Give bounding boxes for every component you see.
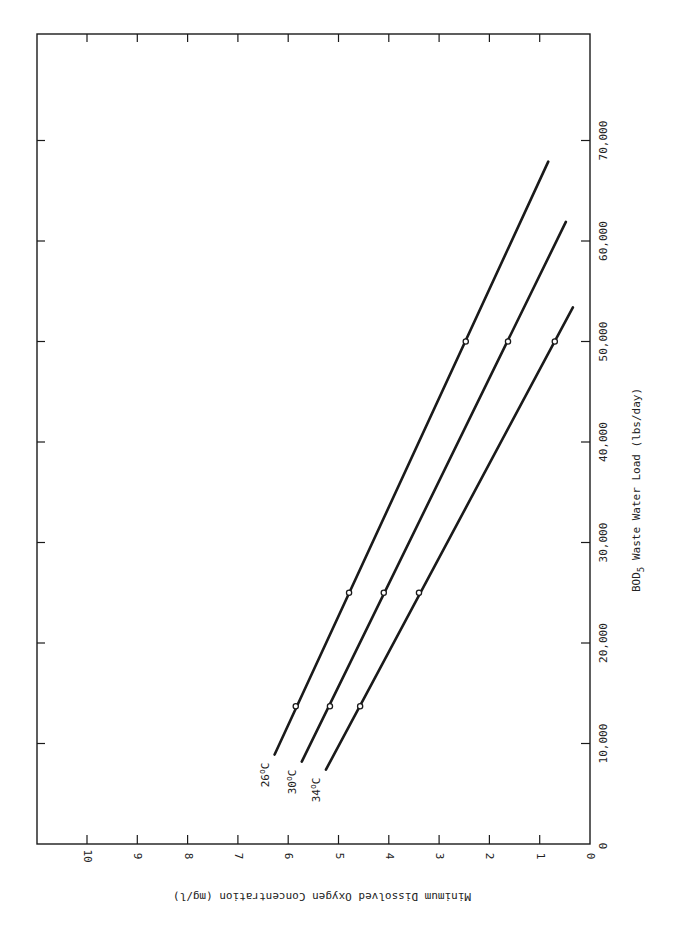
data-point-marker xyxy=(358,704,363,709)
data-point-marker xyxy=(327,704,332,709)
do-tick-label: 10 xyxy=(81,849,94,862)
do-tick-label: 8 xyxy=(182,853,195,860)
do-tick-label: 2 xyxy=(483,853,496,860)
bod-tick-label: 30,000 xyxy=(597,523,610,563)
bod-tick-label: 50,000 xyxy=(597,322,610,362)
data-point-marker xyxy=(416,590,421,595)
series-26c: 26oC xyxy=(258,162,549,788)
series-label: 34oC xyxy=(309,778,323,803)
series-label: 30oC xyxy=(285,770,299,795)
axis-tick-labels: 01234567891010,00020,00030,00040,00050,0… xyxy=(81,121,610,863)
chart: 01234567891010,00020,00030,00040,00050,0… xyxy=(0,0,683,939)
x-axis-title-rest: Waste Water Load (lbs/day) xyxy=(630,388,643,567)
data-point-marker xyxy=(505,339,510,344)
x-axis-title-main: BOD xyxy=(630,572,643,592)
do-tick-label: 4 xyxy=(383,853,396,860)
do-tick-label: 6 xyxy=(282,853,295,860)
do-tick-label: 7 xyxy=(232,853,245,860)
series-30c: 30oC xyxy=(285,222,566,794)
do-tick-label: 0 xyxy=(584,853,597,860)
do-tick-label: 3 xyxy=(433,853,446,860)
do-tick-label: 9 xyxy=(131,853,144,860)
do-tick-label: 1 xyxy=(534,853,547,860)
data-series: 26oC30oC34oC xyxy=(258,162,573,803)
plot-frame xyxy=(37,34,590,844)
series-34c: 34oC xyxy=(309,307,573,802)
data-point-marker xyxy=(346,590,351,595)
series-line xyxy=(302,222,566,762)
data-point-marker xyxy=(552,339,557,344)
series-line xyxy=(275,162,549,755)
series-label: 26oC xyxy=(258,763,272,788)
bod-tick-label: 70,000 xyxy=(597,121,610,161)
bod-tick-label: 10,000 xyxy=(597,724,610,764)
x-axis-title: BOD5 Waste Water Load (lbs/day) xyxy=(630,388,646,592)
bod-zero-label: 0 xyxy=(597,843,610,850)
y-axis-title: Minimum Dissolved Oxygen Concentration (… xyxy=(173,890,471,903)
bod-tick-label: 60,000 xyxy=(597,221,610,261)
data-point-marker xyxy=(463,339,468,344)
bod-tick-label: 20,000 xyxy=(597,623,610,663)
bod-tick-label: 40,000 xyxy=(597,422,610,462)
axis-ticks xyxy=(37,34,590,844)
do-tick-label: 5 xyxy=(333,853,346,860)
data-point-marker xyxy=(293,704,298,709)
data-point-marker xyxy=(381,590,386,595)
